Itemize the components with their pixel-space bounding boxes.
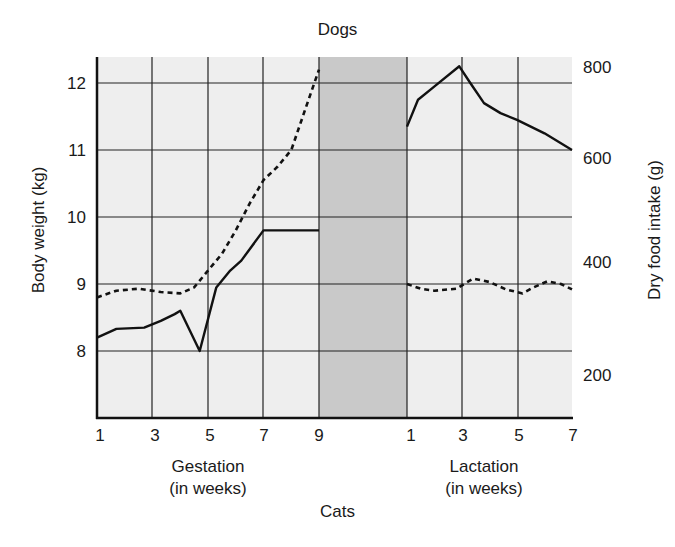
y-tick-10: 10	[67, 208, 86, 227]
y-tick-12: 12	[67, 74, 86, 93]
chart-canvas: 12 11 10 9 8 800 600 400 200 1 3 5 7 9 1…	[0, 0, 675, 547]
x-axis-gestation-title: Gestation (in weeks)	[148, 456, 268, 500]
x-axis-lactation-ticks: 1 3 5 7	[406, 426, 577, 445]
y-axis-right-ticks: 800 600 400 200	[583, 58, 611, 385]
x-tick-l1: 1	[406, 426, 415, 445]
y-tick-9: 9	[77, 275, 86, 294]
x-tick-g7: 7	[259, 426, 268, 445]
x-tick-l5: 5	[514, 426, 523, 445]
x-tick-g3: 3	[150, 426, 159, 445]
lactation-label: Lactation	[424, 456, 544, 478]
y-axis-right-title: Dry food intake (g)	[645, 160, 664, 300]
x-tick-l7: 7	[568, 426, 577, 445]
shaded-gap	[319, 57, 407, 418]
x-axis-gestation-ticks: 1 3 5 7 9	[95, 426, 323, 445]
gestation-unit-label: (in weeks)	[148, 478, 268, 500]
x-tick-g5: 5	[205, 426, 214, 445]
y-right-tick-600: 600	[583, 149, 611, 168]
y-tick-8: 8	[77, 342, 86, 361]
y-tick-11: 11	[68, 141, 86, 160]
y-right-tick-200: 200	[583, 366, 611, 385]
y-right-tick-800: 800	[583, 58, 611, 77]
gestation-label: Gestation	[148, 456, 268, 478]
y-right-tick-400: 400	[583, 253, 611, 272]
y-axis-left-ticks: 12 11 10 9 8	[67, 74, 86, 361]
y-axis-left-title: Body weight (kg)	[29, 167, 48, 294]
x-axis-lactation-title: Lactation (in weeks)	[424, 456, 544, 500]
plot-area-lactation	[407, 57, 572, 418]
x-tick-g1: 1	[95, 426, 104, 445]
x-tick-l3: 3	[458, 426, 467, 445]
x-tick-g9: 9	[314, 426, 323, 445]
lactation-unit-label: (in weeks)	[424, 478, 544, 500]
